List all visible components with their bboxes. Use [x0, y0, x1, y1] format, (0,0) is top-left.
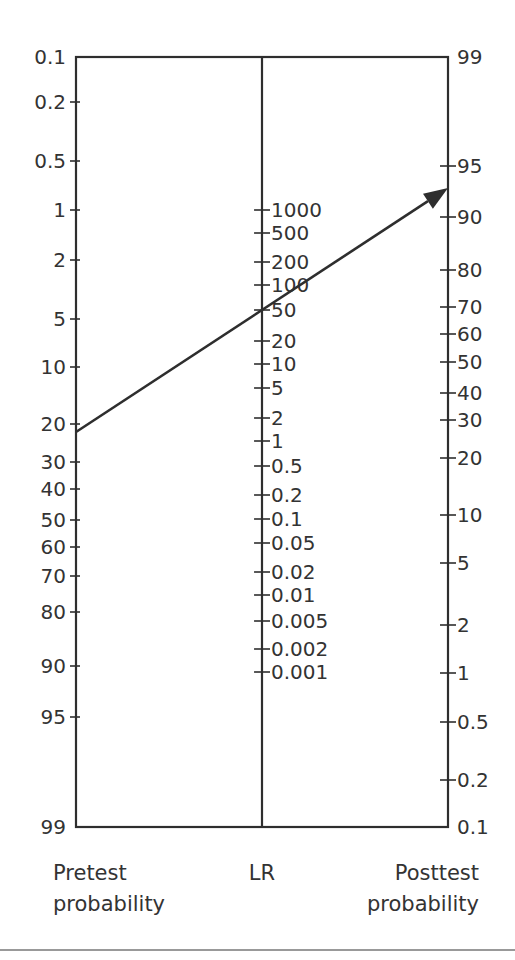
tick-label: 70 — [457, 295, 482, 319]
tick-label: 100 — [271, 273, 309, 297]
tick-label: 70 — [41, 564, 66, 588]
tick-label: 99 — [41, 815, 66, 839]
tick-label: 30 — [457, 408, 482, 432]
posttest-caption-line1: Posttest — [395, 861, 479, 885]
tick-label: 1 — [53, 198, 66, 222]
tick-label: 2 — [457, 613, 470, 637]
tick-label: 10 — [457, 503, 482, 527]
axis-captions: Pretest probability LR Posttest probabil… — [53, 861, 479, 916]
tick-label: 0.05 — [271, 531, 316, 555]
tick-label: 1 — [271, 429, 284, 453]
tick-label: 2 — [271, 406, 284, 430]
tick-label: 0.2 — [457, 768, 489, 792]
tick-label: 2 — [53, 248, 66, 272]
tick-label: 0.001 — [271, 660, 328, 684]
tick-label: 80 — [457, 258, 482, 282]
tick-label: 99 — [457, 45, 482, 69]
posttest-caption-line2: probability — [367, 892, 479, 916]
tick-label: 0.005 — [271, 609, 328, 633]
tick-label: 0.002 — [271, 637, 328, 661]
tick-label: 1 — [457, 661, 470, 685]
nomogram-frame — [76, 57, 448, 827]
tick-label: 200 — [271, 250, 309, 274]
tick-label: 0.1 — [271, 507, 303, 531]
tick-label: 0.02 — [271, 560, 316, 584]
tick-label: 5 — [271, 376, 284, 400]
tick-label: 20 — [41, 412, 66, 436]
tick-label: 0.1 — [457, 815, 489, 839]
example-line — [76, 201, 428, 432]
lr-caption: LR — [249, 861, 275, 885]
tick-label: 60 — [41, 535, 66, 559]
tick-label: 0.1 — [34, 45, 66, 69]
tick-label: 95 — [41, 705, 66, 729]
tick-label: 95 — [457, 154, 482, 178]
tick-label: 5 — [457, 551, 470, 575]
tick-label: 0.5 — [457, 710, 489, 734]
tick-label: 60 — [457, 322, 482, 346]
tick-label: 1000 — [271, 198, 322, 222]
tick-label: 0.5 — [34, 149, 66, 173]
tick-label: 500 — [271, 221, 309, 245]
tick-label: 10 — [41, 355, 66, 379]
tick-label: 0.2 — [271, 483, 303, 507]
tick-label: 80 — [41, 600, 66, 624]
tick-label: 0.5 — [271, 454, 303, 478]
arrowhead-icon — [423, 188, 448, 209]
tick-label: 0.2 — [34, 90, 66, 114]
tick-label: 90 — [41, 654, 66, 678]
tick-label: 0.01 — [271, 583, 316, 607]
pretest-caption-line2: probability — [53, 892, 165, 916]
tick-label: 20 — [271, 329, 296, 353]
tick-label: 40 — [457, 381, 482, 405]
tick-label: 5 — [53, 307, 66, 331]
tick-label: 90 — [457, 205, 482, 229]
tick-label: 10 — [271, 352, 296, 376]
pretest-caption-line1: Pretest — [53, 861, 127, 885]
fagan-nomogram: 0.10.20.51251020304050607080909599100050… — [0, 0, 515, 960]
tick-label: 20 — [457, 446, 482, 470]
tick-label: 40 — [41, 477, 66, 501]
tick-label: 50 — [41, 508, 66, 532]
tick-label: 50 — [457, 350, 482, 374]
tick-label: 30 — [41, 450, 66, 474]
